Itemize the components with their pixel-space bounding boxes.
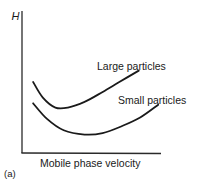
y-axis-label: H — [12, 10, 20, 22]
series-label-small-particles: Small particles — [118, 94, 186, 106]
series-line-small-particles — [33, 103, 158, 134]
series-label-large-particles: Large particles — [97, 60, 166, 72]
x-axis-label: Mobile phase velocity — [40, 157, 141, 169]
x-axis — [21, 153, 161, 154]
panel-label: (a) — [4, 168, 16, 179]
chart: H Mobile phase velocity (a) Large partic… — [0, 0, 200, 181]
